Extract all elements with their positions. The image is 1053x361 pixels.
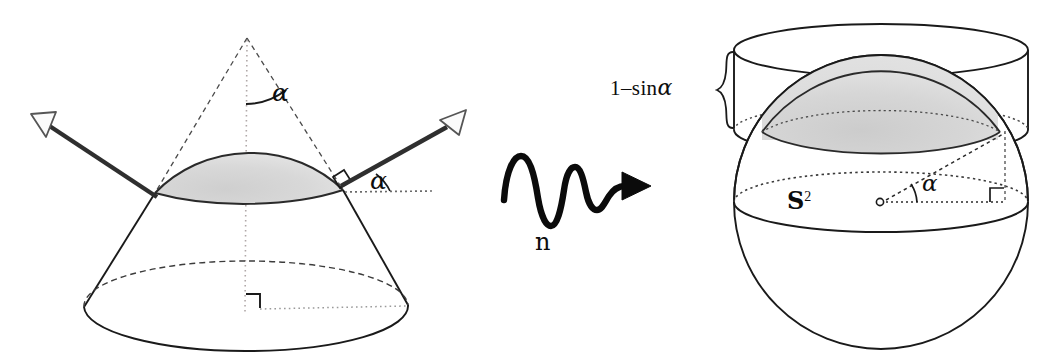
figure-root: α α 1–sinα S2 α n	[0, 0, 1053, 361]
wavy-arrow-path	[504, 156, 637, 226]
reflected-ray-left-arrowhead	[31, 112, 56, 137]
band-height-alpha: α	[658, 75, 673, 100]
photon-index-label: n	[535, 228, 550, 256]
sphere-name-exponent: 2	[804, 189, 811, 204]
wavy-arrow-head	[622, 172, 651, 200]
cone-base-front-arc	[84, 305, 408, 351]
sphere-angle-label: α	[922, 170, 938, 196]
band-height-brace	[717, 52, 733, 128]
right-sphere-group	[717, 24, 1028, 349]
cone-base-right-angle-marker	[246, 294, 260, 308]
cone-base-radius-dotted	[260, 306, 406, 309]
cone-tangent-reference-dotted	[345, 191, 432, 192]
cone-spherical-cap-shaded	[155, 153, 343, 204]
cone-base-rear-arc	[84, 261, 408, 307]
reflected-ray-right-arrowhead	[440, 110, 466, 135]
band-height-one: 1	[610, 76, 621, 100]
cone-edge-right-solid	[343, 190, 408, 305]
band-height-minus: –	[621, 76, 632, 100]
left-cone-group	[31, 38, 466, 351]
sphere-center-point	[876, 198, 883, 205]
cylinder-band-height-label: 1–sinα	[610, 75, 673, 101]
reflected-ray-right-shaft	[341, 127, 447, 186]
sphere-name-base: S	[787, 186, 804, 215]
diagram-canvas	[0, 0, 1053, 361]
band-height-sin: sin	[632, 76, 658, 100]
photon-arrow-group	[504, 156, 651, 226]
cone-tangent-angle-label: α	[370, 166, 387, 195]
sphere-name-label: S2	[787, 186, 811, 215]
reflected-ray-left-shaft	[48, 125, 157, 197]
cone-apex-angle-label: α	[272, 78, 289, 107]
